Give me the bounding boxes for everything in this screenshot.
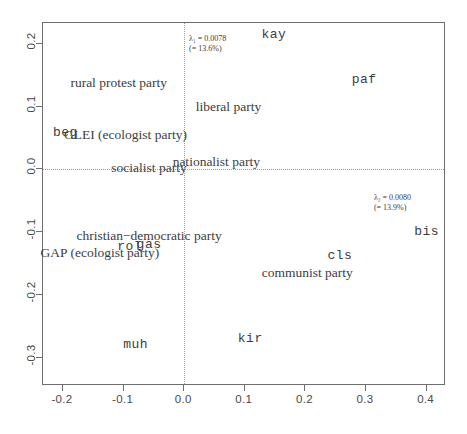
lambda-1-percent: (= 13.6%)	[189, 44, 226, 54]
x-tick-label: 0.1	[235, 393, 252, 405]
point-label: cls	[327, 248, 352, 263]
x-tick	[244, 385, 245, 391]
point-label: GLEI (ecologist party)	[64, 127, 187, 143]
x-tick	[426, 385, 427, 391]
x-tick-label: -0.2	[51, 393, 72, 405]
plot-area: kayrural protest partypafliberal partybe…	[42, 22, 445, 385]
point-label: GAP (ecologist party)	[41, 245, 160, 261]
y-tick-label: -0.1	[14, 223, 48, 235]
lambda-2-value: λ₂ = 0.0080	[374, 193, 411, 203]
y-tick-label-text: -0.1	[25, 212, 37, 246]
point-label: paf	[352, 71, 377, 86]
y-tick-label: -0.3	[14, 349, 48, 361]
y-tick-label-text: 0.2	[25, 24, 37, 58]
point-label: kay	[261, 26, 286, 41]
y-tick-label-text: 0.1	[25, 87, 37, 121]
x-tick-label: 0.0	[175, 393, 192, 405]
x-tick-label: 0.2	[296, 393, 313, 405]
vertical-reference-axis	[184, 23, 185, 384]
x-tick	[304, 385, 305, 391]
x-tick	[183, 385, 184, 391]
correspondence-analysis-figure: kayrural protest partypafliberal partybe…	[0, 0, 467, 434]
lambda-1-annotation: λ₁ = 0.0078(= 13.6%)	[189, 34, 226, 54]
point-label: rural protest party	[70, 75, 167, 91]
y-tick-label: 0.1	[14, 98, 48, 110]
y-tick-label-text: -0.3	[25, 338, 37, 372]
point-label: bis	[414, 223, 439, 238]
x-tick	[62, 385, 63, 391]
point-label: liberal party	[196, 99, 262, 115]
point-label: muh	[123, 336, 148, 351]
lambda-2-annotation: λ₂ = 0.0080(= 13.9%)	[374, 193, 411, 213]
x-tick	[123, 385, 124, 391]
y-tick-label: 0.2	[14, 35, 48, 47]
y-tick-label-text: -0.2	[25, 275, 37, 309]
y-tick-label: -0.2	[14, 286, 48, 298]
lambda-2-percent: (= 13.9%)	[374, 203, 411, 213]
x-tick-label: 0.3	[357, 393, 374, 405]
y-tick-label: 0.0	[14, 160, 48, 172]
point-label: communist party	[262, 265, 353, 281]
x-tick-label: -0.1	[112, 393, 133, 405]
x-tick-label: 0.4	[417, 393, 434, 405]
point-label: kir	[238, 330, 263, 345]
y-tick-label-text: 0.0	[25, 149, 37, 183]
lambda-1-value: λ₁ = 0.0078	[189, 34, 226, 44]
point-label: nationalist party	[173, 154, 260, 170]
x-tick	[365, 385, 366, 391]
